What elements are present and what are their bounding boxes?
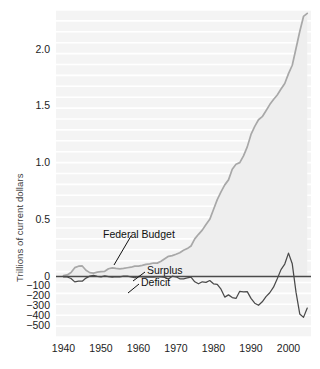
x-tick-label: 1980 [194, 342, 234, 354]
x-tick-label: 2000 [269, 342, 309, 354]
y-tick-label: 2.0 [10, 43, 50, 55]
series-label-federal-budget: Federal Budget [103, 228, 175, 240]
x-tick-label: 1960 [119, 342, 159, 354]
chart-figure: Trillions of current dollars 00.51.01.52… [0, 0, 320, 369]
x-tick-label: 1940 [44, 342, 84, 354]
x-tick-label: 1990 [231, 342, 271, 354]
y-tick-label: 1.0 [10, 156, 50, 168]
x-tick-label: 1970 [156, 342, 196, 354]
y-axis-title: Trillions of current dollars [14, 173, 25, 282]
y-tick-label: 1.5 [10, 99, 50, 111]
series-label-deficit: Deficit [141, 276, 170, 288]
y-tick-label: 0.5 [10, 213, 50, 225]
series-label-surplus: Surplus [147, 264, 183, 276]
x-tick-label: 1950 [81, 342, 121, 354]
y-tick-label: −500 [10, 319, 50, 331]
